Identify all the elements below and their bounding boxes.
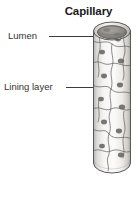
callout-label-lining-layer: Lining layer xyxy=(4,81,53,92)
capillary-tube-svg xyxy=(88,19,137,184)
capillary-illustration xyxy=(88,19,137,184)
callout-label-lumen: Lumen xyxy=(8,30,37,41)
page-title: Capillary xyxy=(40,5,137,18)
figure-canvas: Capillary Lumen Lining layer xyxy=(0,0,137,214)
